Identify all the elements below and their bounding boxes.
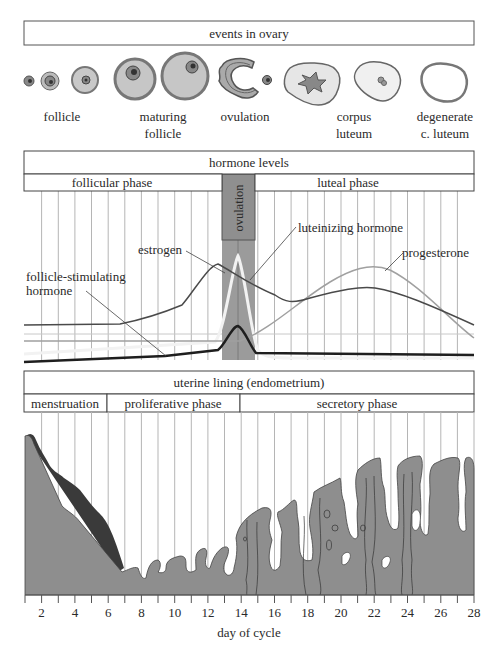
hormone-title: hormone levels bbox=[209, 155, 289, 170]
progesterone-label: progesterone bbox=[402, 245, 469, 260]
maturing-follicle-icon bbox=[115, 53, 208, 99]
hormone-section: ovulation hormone levels follicular phas… bbox=[24, 151, 474, 362]
label-maturing-follicle: follicle bbox=[145, 126, 182, 141]
follicular-phase-label: follicular phase bbox=[72, 175, 153, 190]
fsh-label-line2: hormone bbox=[26, 283, 72, 298]
x-axis-label: day of cycle bbox=[217, 625, 281, 640]
tick-8: 8 bbox=[138, 605, 145, 620]
fsh-label: follicle-stimulating bbox=[26, 269, 126, 284]
label-corpus-luteum: luteum bbox=[336, 126, 372, 141]
tick-16: 16 bbox=[268, 605, 282, 620]
corpus-luteum-icon bbox=[284, 62, 400, 105]
tick-10: 10 bbox=[168, 605, 181, 620]
ovulation-icon bbox=[219, 59, 272, 99]
tick-20: 20 bbox=[335, 605, 348, 620]
tick-26: 26 bbox=[434, 605, 448, 620]
tick-12: 12 bbox=[201, 605, 214, 620]
uterine-section: uterine lining (endometrium) menstruatio… bbox=[24, 371, 474, 595]
degenerate-corpus-luteum-icon bbox=[422, 64, 467, 102]
tick-22: 22 bbox=[368, 605, 381, 620]
x-axis: 2 4 6 8 10 12 14 16 18 20 22 24 26 28 da… bbox=[25, 595, 481, 640]
estrogen-label: estrogen bbox=[138, 242, 183, 257]
tick-24: 24 bbox=[401, 605, 415, 620]
label-follicle: follicle bbox=[44, 109, 81, 124]
tick-18: 18 bbox=[301, 605, 314, 620]
luteal-phase-label: luteal phase bbox=[317, 175, 379, 190]
label-degenerate: degenerate bbox=[417, 109, 474, 124]
tick-6: 6 bbox=[105, 605, 112, 620]
label-maturing: maturing bbox=[140, 109, 187, 124]
ovary-section: events in ovary bbox=[24, 21, 474, 141]
menstruation-label: menstruation bbox=[31, 396, 99, 411]
ovulation-phase-label: ovulation bbox=[232, 184, 246, 232]
secretory-phase-label: secretory phase bbox=[317, 396, 398, 411]
label-degenerate-luteum: c. luteum bbox=[421, 126, 469, 141]
menstrual-cycle-diagram: events in ovary bbox=[0, 0, 499, 659]
tick-2: 2 bbox=[38, 605, 45, 620]
label-corpus: corpus bbox=[337, 109, 372, 124]
label-ovulation: ovulation bbox=[220, 109, 270, 124]
uterine-title: uterine lining (endometrium) bbox=[174, 375, 325, 390]
tick-28: 28 bbox=[468, 605, 481, 620]
lh-label: luteinizing hormone bbox=[298, 220, 403, 235]
tick-4: 4 bbox=[72, 605, 79, 620]
ovary-title: events in ovary bbox=[209, 26, 289, 41]
tick-14: 14 bbox=[235, 605, 249, 620]
follicle-icon bbox=[24, 67, 98, 93]
proliferative-phase-label: proliferative phase bbox=[124, 396, 221, 411]
